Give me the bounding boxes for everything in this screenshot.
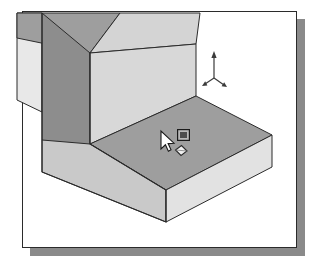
screenshot-root (0, 0, 310, 264)
viewport-page[interactable] (22, 11, 297, 248)
